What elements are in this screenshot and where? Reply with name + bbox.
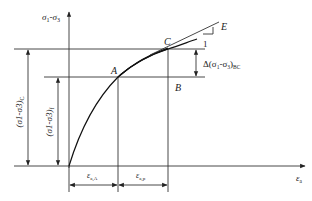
stress-C-sub: C bbox=[19, 97, 25, 101]
dimension-strain-p: εa,p bbox=[119, 171, 167, 185]
dimension-stress-f: (σ1-σ3)f bbox=[44, 78, 58, 165]
y-label-sub3: 3 bbox=[57, 17, 60, 23]
svg-text:εa,p: εa,p bbox=[136, 171, 146, 182]
dimension-strain-A: εa,A bbox=[70, 171, 117, 185]
x-label-sub: a bbox=[300, 178, 303, 184]
tangent-line-E bbox=[150, 22, 219, 55]
stress-strain-curve-alt bbox=[118, 49, 168, 77]
svg-text:Δ(σ1-σ3)BC: Δ(σ1-σ3)BC bbox=[203, 59, 241, 70]
slope-triangle bbox=[203, 27, 213, 34]
dimension-stress-C: (σ1-σ3)C bbox=[14, 50, 28, 165]
stress-strain-diagram: σ1-σ3 εa A C B E 1 (σ1-σ3)C (σ1-σ3)f bbox=[0, 0, 312, 201]
delta-mid: -σ bbox=[219, 59, 227, 69]
y-axis-label: σ1-σ3 bbox=[42, 12, 60, 23]
delta-subBC: BC bbox=[233, 64, 241, 70]
point-label-C: C bbox=[164, 36, 171, 47]
stress-strain-curve bbox=[69, 39, 197, 166]
stress-C-text: (σ1-σ3) bbox=[14, 101, 24, 128]
svg-text:(σ1-σ3)f: (σ1-σ3)f bbox=[44, 108, 55, 137]
delta-prefix: Δ(σ bbox=[203, 59, 217, 69]
point-label-A: A bbox=[110, 65, 118, 76]
svg-text:εa,A: εa,A bbox=[87, 171, 98, 182]
stress-f-text: (σ1-σ3) bbox=[44, 110, 54, 137]
x-axis-label: εa bbox=[296, 173, 303, 184]
svg-text:(σ1-σ3)C: (σ1-σ3)C bbox=[14, 97, 25, 128]
strain-A-sub: a,A bbox=[90, 176, 97, 182]
dimension-delta-BC: Δ(σ1-σ3)BC bbox=[196, 50, 241, 76]
stress-f-sub: f bbox=[49, 108, 55, 110]
strain-p-sub: a,p bbox=[139, 176, 145, 182]
point-label-B: B bbox=[175, 82, 181, 93]
point-label-E: E bbox=[220, 21, 227, 32]
slope-label-one: 1 bbox=[203, 39, 208, 49]
